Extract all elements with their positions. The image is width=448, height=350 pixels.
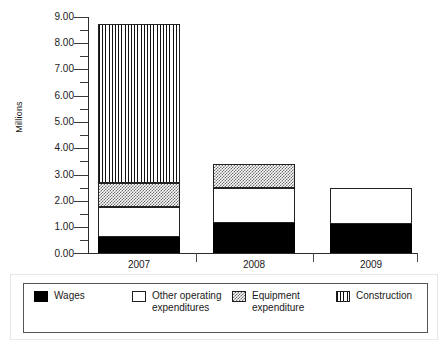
bar-segment-other-2009[interactable] <box>330 188 412 224</box>
plot-area: Millions 9.00 8.00 7.00 6.00 5.00 4.00 3… <box>0 0 448 276</box>
legend-label-other: Other operating expenditures <box>152 290 236 313</box>
y-major-tick <box>74 96 89 97</box>
legend-swatch-wages-icon <box>34 291 48 302</box>
y-major-tick <box>74 253 89 254</box>
legend-swatch-construction-icon <box>336 291 350 302</box>
y-major-tick <box>74 148 89 149</box>
y-major-tick <box>74 201 89 202</box>
bar-segment-equipment-2007[interactable] <box>98 183 180 207</box>
legend-swatch-other-icon <box>132 291 146 302</box>
y-major-tick <box>74 43 89 44</box>
x-axis-line <box>88 253 418 254</box>
y-major-tick <box>74 227 89 228</box>
legend-item-equipment-expenditure[interactable]: Equipment expenditure <box>232 290 336 313</box>
bar-segment-wages-2009[interactable] <box>330 224 412 253</box>
y-axis-line <box>88 17 89 254</box>
y-major-tick <box>74 69 89 70</box>
legend-label-wages: Wages <box>54 290 85 302</box>
bar-segment-other-2007[interactable] <box>98 207 180 237</box>
bar-segment-equipment-2008[interactable] <box>213 164 295 188</box>
y-major-tick <box>74 175 89 176</box>
bar-2007[interactable] <box>98 25 180 253</box>
y-major-tick <box>74 17 89 18</box>
bar-segment-construction-2007[interactable] <box>98 24 180 183</box>
legend: Wages Other operating expenditures Equip… <box>23 283 428 333</box>
bar-2008[interactable] <box>213 164 295 253</box>
bar-segment-other-2008[interactable] <box>213 188 295 223</box>
bar-2009[interactable] <box>330 189 412 253</box>
legend-item-other-operating-expenditures[interactable]: Other operating expenditures <box>132 290 236 313</box>
legend-item-wages[interactable]: Wages <box>34 290 85 302</box>
legend-swatch-equipment-icon <box>232 291 246 302</box>
legend-label-construction: Construction <box>356 290 412 302</box>
legend-item-construction[interactable]: Construction <box>336 290 412 302</box>
x-axis-category-label-2007: 2007 <box>79 259 199 270</box>
bar-segment-wages-2007[interactable] <box>98 237 180 253</box>
legend-label-equipment: Equipment expenditure <box>252 290 336 313</box>
x-axis-category-label-2009: 2009 <box>311 259 431 270</box>
chart-figure: Millions 9.00 8.00 7.00 6.00 5.00 4.00 3… <box>0 0 448 350</box>
y-major-tick <box>74 122 89 123</box>
bar-segment-wages-2008[interactable] <box>213 223 295 253</box>
x-axis-category-label-2008: 2008 <box>194 259 314 270</box>
